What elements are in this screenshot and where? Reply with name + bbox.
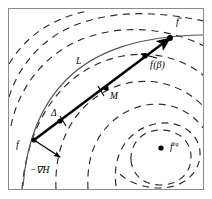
marker-M bbox=[103, 85, 108, 90]
marker-f-beta bbox=[142, 53, 147, 58]
marker-f-start bbox=[31, 137, 36, 142]
diagram-canvas: f f* f(β) feq L M Δ −∇H bbox=[0, 0, 212, 199]
label-point-M: M bbox=[109, 91, 119, 101]
figure-container: f f* f(β) feq L M Δ −∇H bbox=[0, 0, 212, 199]
label-f-beta: f(β) bbox=[150, 59, 166, 71]
label-delta: Δ bbox=[50, 108, 57, 118]
marker-f-eq bbox=[158, 145, 163, 150]
marker-f-star bbox=[167, 35, 173, 41]
label-negative-gradient-H: −∇H bbox=[30, 165, 50, 175]
marker-delta bbox=[57, 118, 62, 123]
label-curve-L: L bbox=[75, 56, 81, 66]
